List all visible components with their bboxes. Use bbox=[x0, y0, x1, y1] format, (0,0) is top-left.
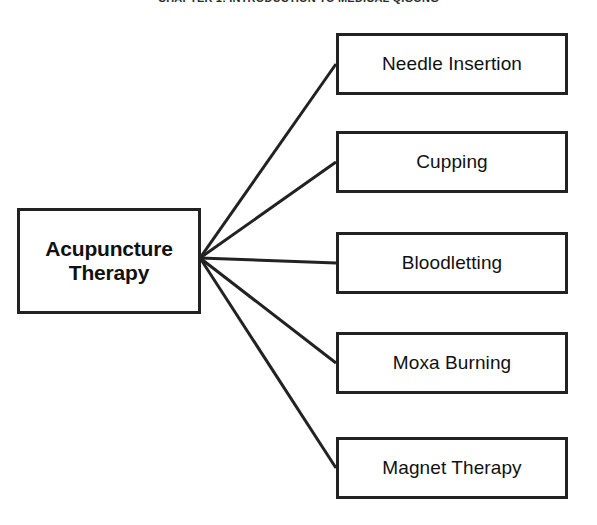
node-leaf-label: Moxa Burning bbox=[393, 352, 511, 374]
node-leaf-label: Bloodletting bbox=[402, 252, 503, 274]
node-root-label-line-1: Acupuncture bbox=[45, 237, 172, 261]
node-needle-insertion[interactable]: Needle Insertion bbox=[336, 33, 568, 95]
connector-line-3 bbox=[200, 258, 336, 363]
node-bloodletting[interactable]: Bloodletting bbox=[336, 232, 568, 294]
connector-line-1 bbox=[200, 162, 336, 258]
node-leaf-label: Magnet Therapy bbox=[382, 457, 521, 479]
connector-line-0 bbox=[200, 64, 336, 258]
connector-line-4 bbox=[200, 258, 336, 468]
node-root-label-line-2: Therapy bbox=[45, 261, 172, 285]
node-acupuncture-therapy[interactable]: Acupuncture Therapy bbox=[17, 208, 201, 314]
connector-line-2 bbox=[200, 258, 336, 263]
node-cupping[interactable]: Cupping bbox=[336, 131, 568, 193]
diagram-page: CHAPTER 1: INTRODUCTION TO MEDICAL QIGON… bbox=[0, 0, 597, 525]
node-leaf-label: Needle Insertion bbox=[382, 53, 522, 75]
node-magnet-therapy[interactable]: Magnet Therapy bbox=[336, 437, 568, 499]
node-root-label: Acupuncture Therapy bbox=[45, 237, 172, 285]
node-leaf-label: Cupping bbox=[416, 151, 487, 173]
node-moxa-burning[interactable]: Moxa Burning bbox=[336, 332, 568, 394]
